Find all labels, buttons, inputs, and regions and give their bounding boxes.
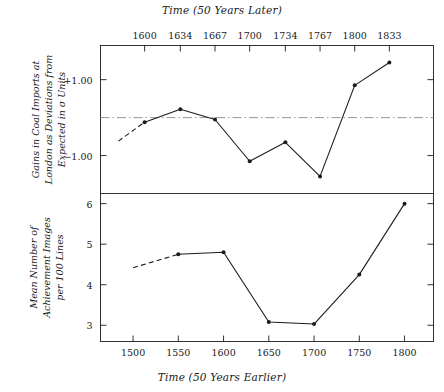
data-point xyxy=(353,83,357,87)
data-point xyxy=(312,322,316,326)
data-point xyxy=(387,61,391,65)
series-line-dashed-segment xyxy=(118,122,144,141)
figure: Time (50 Years Later) Time (50 Years Ear… xyxy=(0,0,444,392)
data-point xyxy=(143,120,147,124)
data-point xyxy=(248,159,252,163)
data-point xyxy=(318,174,322,178)
series-line xyxy=(145,63,390,177)
chart-canvas xyxy=(0,0,444,392)
data-point xyxy=(283,140,287,144)
series-line xyxy=(178,204,404,324)
data-point xyxy=(178,107,182,111)
data-point xyxy=(267,320,271,324)
data-point xyxy=(357,273,361,277)
data-point xyxy=(403,202,407,206)
data-point xyxy=(222,250,226,254)
data-point xyxy=(176,252,180,256)
data-point xyxy=(213,118,217,122)
series-line-dashed-segment xyxy=(133,254,178,267)
